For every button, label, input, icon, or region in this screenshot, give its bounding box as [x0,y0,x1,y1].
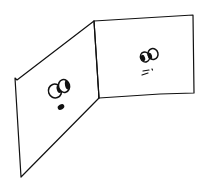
folded-screen-drawing [0,0,209,190]
left-panel [15,21,99,177]
sketch-canvas: Hand-drawn sketch of a folded two-panel … [0,0,209,190]
